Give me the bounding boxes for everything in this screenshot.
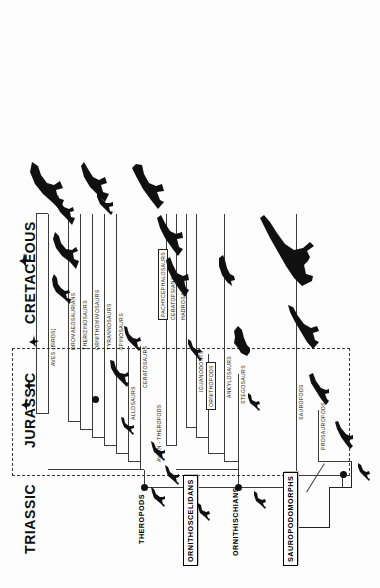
branch-therizinosaurs bbox=[80, 214, 81, 430]
silhouette-ankylosaurs bbox=[214, 254, 236, 288]
branch-aves-riser bbox=[36, 413, 48, 414]
clade-label-theropods: THEROPODS bbox=[137, 494, 146, 544]
silhouette-theropod-root bbox=[196, 502, 211, 522]
silhouette-allosaurs bbox=[108, 358, 130, 388]
period-label-triassic: TRIASSIC bbox=[22, 484, 38, 554]
tip-label-aves: AVES (BIRDS) bbox=[50, 328, 56, 366]
node-avian-theropods bbox=[92, 396, 99, 403]
branch-prosauropods bbox=[318, 410, 319, 462]
clade-label-ornithischians: ORNITHISCHIANS bbox=[231, 487, 240, 556]
branch-theropod-spine bbox=[48, 469, 144, 470]
branch-ankylosaurs bbox=[224, 214, 225, 462]
tip-label-ankylosaurs: ANKYLOSAURS bbox=[226, 356, 232, 398]
silhouette-tyrannosaurs bbox=[26, 160, 66, 212]
branch-theropod-riser-6 bbox=[80, 429, 92, 430]
silhouette-aves-small-2 bbox=[24, 378, 35, 392]
branch-iguanodonts-riser bbox=[196, 437, 208, 438]
silhouette-bird-2 bbox=[18, 252, 31, 268]
branch-aves bbox=[48, 214, 49, 414]
tip-label-sauropods: SAUROPODS bbox=[298, 384, 304, 420]
branch-theropod-riser-5 bbox=[92, 437, 104, 438]
tip-label-therizinosaurs: THERIZINOSAURS bbox=[82, 300, 88, 350]
branch-stegosaurs bbox=[238, 374, 239, 470]
figure-plate: TRIASSIC JURASSIC CRETACEOUS bbox=[0, 0, 380, 588]
silhouette-sauropods-large bbox=[258, 214, 316, 288]
branch-theropod-riser-3 bbox=[116, 453, 128, 454]
silhouette-iguanodonts bbox=[160, 256, 190, 298]
silhouette-prosauropods-2 bbox=[332, 420, 354, 450]
silhouette-dromaeosaurians bbox=[50, 272, 72, 306]
silhouette-ceratosaurs bbox=[122, 324, 142, 352]
branch-aves-crown bbox=[36, 214, 37, 414]
tip-label-ornithomimosaurs: ORNITHOMIMOSAURS bbox=[94, 290, 100, 351]
silhouette-ornithischian-root bbox=[252, 490, 267, 510]
branch-ornithopods-riser bbox=[208, 453, 224, 454]
tip-label-prosauropods: PROSAUROPODS bbox=[320, 402, 326, 450]
tip-label-ornithopods: ORNITHOPODS bbox=[206, 362, 216, 410]
branch-theropod-riser-4 bbox=[104, 445, 116, 446]
branch-hadrosaurs-riser bbox=[186, 427, 196, 428]
tip-label-allosaurs: ALLOSAURS bbox=[130, 386, 136, 420]
branch-theropod-riser-7 bbox=[68, 421, 80, 422]
silhouette-aves-small-1 bbox=[20, 396, 32, 412]
silhouette-theropod-basal-3 bbox=[150, 486, 166, 508]
silhouette-sauropods-mid bbox=[286, 304, 320, 350]
branch-sauropodomorph-row bbox=[351, 462, 352, 488]
silhouette-therizinosaurs bbox=[50, 230, 80, 270]
branch-aves-cap bbox=[36, 213, 48, 214]
branch-hadrosaurs bbox=[186, 214, 187, 428]
branch-sauropodomorph-spine bbox=[329, 487, 351, 488]
silhouette-ornithopods bbox=[186, 338, 203, 362]
branch-ornithomimosaurs bbox=[92, 214, 93, 438]
silhouette-bird-1 bbox=[28, 334, 40, 348]
silhouette-theropod-basal-1 bbox=[150, 440, 166, 462]
clade-label-sauropodomorphs: SAUROPODOMORPHS bbox=[283, 472, 298, 566]
silhouette-pachycephalosaurs bbox=[94, 188, 114, 216]
tip-label-ceratosaurs: CERATOSAURS bbox=[142, 346, 148, 388]
silhouette-ornithischian-basal bbox=[246, 392, 261, 412]
silhouette-stegosaurs bbox=[230, 324, 252, 358]
branch-marginocephalia-riser bbox=[166, 445, 176, 446]
silhouette-prosauropods-1 bbox=[306, 372, 330, 406]
silhouette-sauropodomorph-basal bbox=[356, 462, 371, 482]
branch-thyreophora-riser bbox=[224, 461, 238, 462]
branch-iguanodonts bbox=[196, 214, 197, 438]
node-sauropodomorphs bbox=[340, 471, 347, 478]
silhouette-theropod-basal-2 bbox=[164, 464, 180, 486]
silhouette-avian-theropods bbox=[120, 416, 135, 436]
silhouette-ceratopsians bbox=[128, 162, 166, 212]
branch-sauropods-riser bbox=[296, 475, 342, 476]
branch-prosauropods-riser bbox=[318, 461, 352, 462]
tip-label-tyrannosaurs: TYRANNOSAURS bbox=[106, 303, 112, 350]
branch-tyrannosaurs bbox=[104, 214, 105, 446]
branch-ornithischian-spine bbox=[176, 469, 238, 470]
branch-theropod-riser-2 bbox=[128, 461, 140, 462]
branch-spinosaurs bbox=[116, 214, 117, 454]
branch-ceratosaurs bbox=[140, 346, 141, 470]
branch-root-stem bbox=[329, 488, 330, 528]
silhouette-hadrosaurs bbox=[152, 214, 184, 258]
node-theropods bbox=[141, 484, 148, 491]
cladogram-figure: TRIASSIC JURASSIC CRETACEOUS bbox=[0, 36, 380, 588]
